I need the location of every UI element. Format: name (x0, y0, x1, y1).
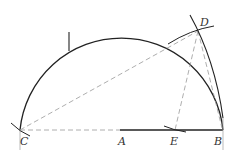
geometry-diagram: C A E B D (0, 0, 238, 161)
label-C: C (20, 135, 29, 148)
label-A: A (117, 135, 126, 148)
label-B: B (213, 135, 222, 148)
segment-DB-dashed (198, 31, 222, 128)
label-D: D (199, 16, 209, 29)
semicircle-arc (20, 38, 223, 130)
segment-DE-dashed (175, 31, 198, 130)
segment-CD-dashed (20, 31, 198, 130)
label-E: E (169, 135, 178, 148)
